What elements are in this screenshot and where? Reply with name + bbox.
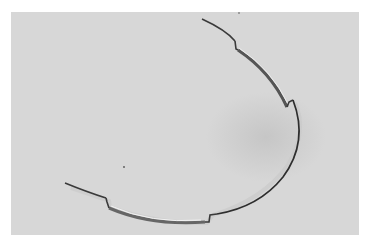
- wire-segment-bottom: [65, 183, 106, 198]
- wire-segment-top: [202, 19, 235, 41]
- photograph: Black-and-white photograph of a curved m…: [11, 12, 359, 235]
- wire-illustration: [11, 12, 359, 235]
- wire-arc: [217, 100, 299, 214]
- wire-flat-upper: [238, 50, 287, 107]
